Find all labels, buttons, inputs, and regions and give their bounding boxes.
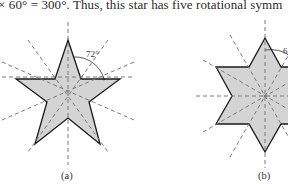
star-b-figure: 6 xyxy=(196,20,288,168)
figure-a-caption: (a) xyxy=(61,170,73,181)
star-a-figure: 72° xyxy=(2,22,134,165)
figure-b-caption: (b) xyxy=(258,170,270,181)
symmetry-figures: 72° 6 xyxy=(0,0,288,184)
star-b-angle-label: 6 xyxy=(283,46,288,56)
star-b-shape xyxy=(216,38,288,152)
star-a-angle-label: 72° xyxy=(86,49,99,59)
star-a-symmetry-axes xyxy=(2,22,134,165)
